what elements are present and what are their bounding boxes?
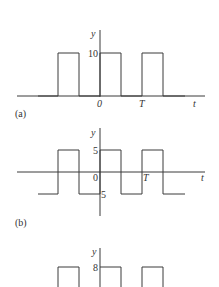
t-axis-label: t	[201, 172, 204, 183]
x-tick-T: T	[139, 98, 146, 109]
pulse-c-1	[58, 267, 79, 287]
y-tick-8: 8	[93, 262, 98, 273]
y-axis-label: y	[90, 127, 96, 138]
panel-c: y 8	[58, 246, 163, 287]
t-axis-label: t	[193, 98, 196, 109]
panel-a: y 10 0 T t (a)	[15, 28, 205, 120]
pulse-c-3	[142, 267, 163, 287]
x-tick-0: 0	[97, 98, 102, 109]
x-tick-0: 0	[93, 172, 98, 183]
y-tick-10: 10	[88, 48, 98, 59]
x-tick-T: T	[143, 172, 150, 183]
pulse-c-2	[100, 267, 121, 287]
pulse-train-a	[38, 53, 185, 96]
panel-label-a: (a)	[15, 108, 26, 120]
waveform-diagram: y 10 0 T t (a) y 5 5 0 T t (b) y 8	[0, 0, 219, 287]
y-axis-label: y	[90, 28, 96, 39]
y-axis-label: y	[91, 246, 97, 257]
y-tick-minus-5: 5	[101, 189, 106, 200]
panel-b: y 5 5 0 T t (b)	[15, 127, 205, 229]
panel-label-b: (b)	[15, 217, 27, 229]
y-tick-5: 5	[93, 145, 98, 156]
